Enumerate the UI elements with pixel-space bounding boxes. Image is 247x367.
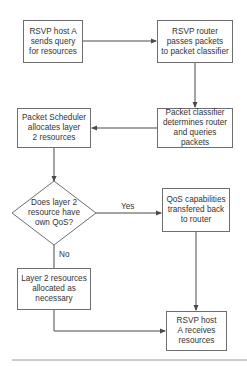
node-host-query: RSVP host A sends query for resources — [23, 20, 83, 63]
node-decision-text: Does layer 2 resource have own QoS? — [20, 198, 88, 228]
edge-label-no: No — [59, 250, 69, 260]
node-classifier: Packet classifier determines router and … — [157, 108, 233, 148]
node-scheduler: Packet Scheduler allocates layer 2 resou… — [17, 108, 91, 148]
arrow-layer2-to-host — [54, 310, 165, 331]
node-layer2-alloc: Layer 2 resources allocated as necessary — [17, 268, 91, 310]
node-host-receives: RSVP host A receives resources — [166, 311, 227, 351]
node-router-passes: RSVP router passes packets to packet cla… — [157, 20, 233, 63]
flowchart: RSVP host A sends query for resources RS… — [0, 0, 247, 367]
node-qos-back: QoS capabilities transfered back to rout… — [162, 188, 230, 232]
edge-label-yes: Yes — [121, 202, 134, 212]
